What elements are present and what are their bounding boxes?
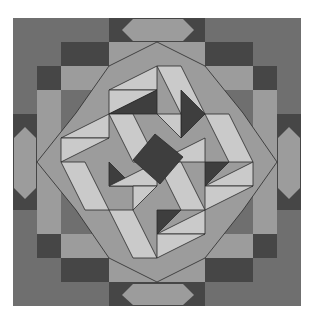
dark-step-top-left-2 [37,66,61,90]
hexagon-right [278,127,300,199]
hexagon-top [122,19,194,41]
dark-step-bottom-right-2 [253,234,277,258]
dark-step-bottom-left-1 [61,258,109,282]
dark-step-top-right-2 [253,66,277,90]
dark-step-top-right-1 [205,42,253,66]
hexagon-left [14,127,36,199]
dark-step-bottom-right-1 [205,258,253,282]
quilt-pattern [0,0,315,314]
hexagon-bottom [122,284,194,305]
dark-step-top-left-1 [61,42,109,66]
dark-step-bottom-left-2 [37,234,61,258]
